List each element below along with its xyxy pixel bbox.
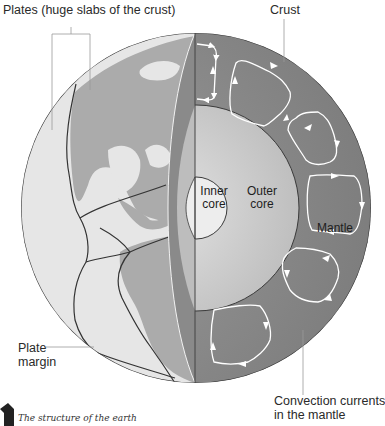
caption-marker-icon <box>0 403 14 426</box>
crust-label: Crust <box>270 3 300 17</box>
plates-label: Plates (huge slabs of the crust) <box>3 3 175 17</box>
mantle-label: Mantle <box>312 222 358 235</box>
figure-caption: The structure of the earth <box>18 413 137 423</box>
inner-core-label: Inner core <box>194 185 234 211</box>
outer-core-label: Outer core <box>242 185 282 211</box>
plate-margin-label: Plate margin <box>18 341 56 369</box>
convection-label: Convection currents in the mantle <box>274 394 385 422</box>
